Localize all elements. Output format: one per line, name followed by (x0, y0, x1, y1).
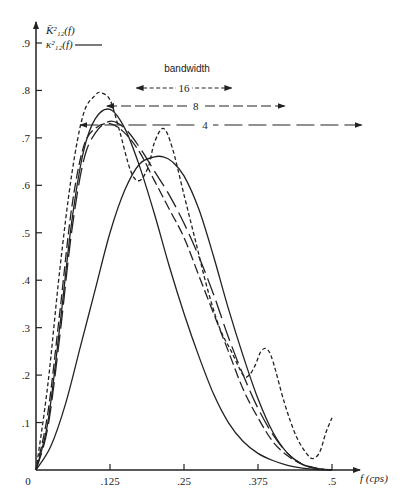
x-tick-label: .5 (328, 475, 337, 487)
y-tick-label: .8 (22, 84, 31, 96)
bandwidth-label-16: 16 (179, 82, 191, 94)
bandwidth-title: bandwidth (164, 63, 210, 74)
y-tick-label: .6 (22, 179, 31, 191)
y-tick-label: .7 (22, 132, 31, 144)
x-ticks: 0.125.25.375.5 (25, 464, 336, 487)
y-tick-label: .9 (22, 37, 31, 49)
y-tick-label: .3 (22, 322, 31, 334)
y-tick-label: .5 (22, 227, 31, 239)
bandwidth-annotation: bandwidth1684 (80, 63, 361, 131)
y-ticks: .1.2.3.4.5.6.7.8.9 (22, 37, 42, 429)
bandwidth-label-4: 4 (202, 119, 208, 131)
x-tick-label: 0 (25, 475, 31, 487)
bandwidth-label-8: 8 (193, 100, 199, 112)
series-line-3 (36, 121, 332, 470)
coherence-chart: 0.125.25.375.5 .1.2.3.4.5.6.7.8.9 f (cps… (0, 0, 407, 502)
x-tick-label: .125 (100, 475, 120, 487)
x-tick-label: .25 (177, 475, 191, 487)
legend: K̄²₁₂(f)κ²₁₂(f) (45, 24, 102, 51)
legend-label: K̄²₁₂(f) (45, 24, 75, 37)
series-line-2 (36, 109, 332, 470)
axes (36, 22, 360, 470)
y-tick-label: .4 (22, 274, 31, 286)
y-tick-label: .2 (22, 369, 30, 381)
legend-label: κ²₁₂(f) (46, 38, 73, 51)
x-axis-label: f (cps) (360, 472, 388, 485)
series-group (36, 92, 332, 470)
x-tick-label: .375 (248, 475, 268, 487)
y-tick-label: .1 (22, 417, 30, 429)
series-line-0 (36, 92, 332, 470)
